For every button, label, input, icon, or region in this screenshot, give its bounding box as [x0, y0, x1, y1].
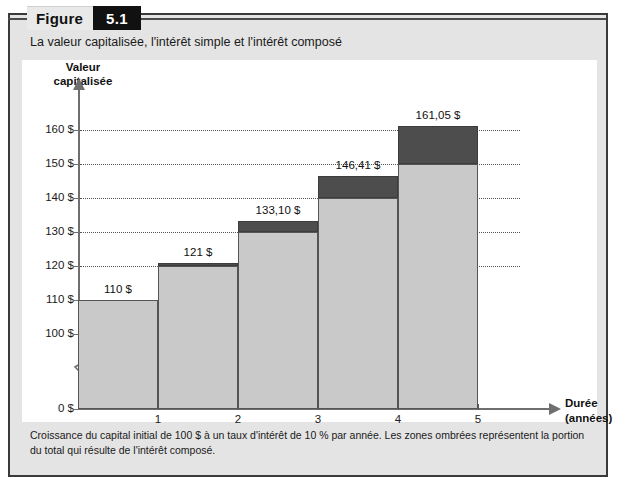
y-axis-tick-mark: [74, 164, 79, 165]
bar-segment-compound-interest: [158, 263, 238, 266]
y-axis-tick: 0 $: [22, 402, 74, 416]
y-axis-tick-label: 110 $: [30, 293, 74, 305]
y-axis-tick: 140 $: [22, 191, 74, 205]
bar-segment-simple-interest: [318, 198, 398, 409]
y-axis-tick-label: 130 $: [30, 225, 74, 237]
x-axis-tick-label: 1: [143, 413, 173, 425]
y-axis-tick-label: 0 $: [30, 402, 74, 414]
x-axis-tick-label: 3: [303, 413, 333, 425]
y-axis-tick-label: 100 $: [30, 327, 74, 339]
y-axis-tick-mark: [74, 232, 79, 233]
figure-number-badge: 5.1: [93, 6, 141, 30]
x-axis-tick-mark: [478, 404, 479, 410]
bar-segment-simple-interest: [158, 266, 238, 409]
y-axis-label-line1: Valeur: [40, 60, 126, 74]
y-axis-tick: 110 $: [22, 293, 74, 307]
x-axis-label-line2: (années): [565, 411, 612, 426]
y-axis-tick-label: 120 $: [30, 259, 74, 271]
bar-segment-simple-interest: [78, 300, 158, 409]
figure-caption: Croissance du capital initial de 100 $ à…: [30, 428, 590, 458]
y-axis-tick-mark: [74, 130, 79, 131]
y-axis-tick: 100 $: [22, 327, 74, 341]
bar-value-label: 146,41 $: [313, 159, 403, 171]
figure-tab: Figure 5.1: [27, 6, 141, 30]
bar-segment-simple-interest: [238, 232, 318, 409]
y-axis-tick-mark: [74, 409, 79, 410]
bar-segment-compound-interest: [238, 221, 318, 232]
y-axis-tick: 130 $: [22, 225, 74, 239]
bar-value-label: 161,05 $: [393, 109, 483, 121]
x-axis-label-line1: Durée: [565, 396, 612, 411]
y-axis-tick-mark: [74, 266, 79, 267]
figure-tab-word: Figure: [27, 6, 93, 30]
y-axis-tick: 120 $: [22, 259, 74, 273]
x-axis-tick-label: 5: [463, 413, 493, 425]
bar-segment-compound-interest: [398, 126, 478, 164]
figure-tab-elbow: [8, 18, 28, 20]
y-axis-tick: 160 $: [22, 123, 74, 137]
x-axis-tick-label: 2: [223, 413, 253, 425]
y-axis-tick-label: 160 $: [30, 123, 74, 135]
bar-value-label: 133,10 $: [233, 204, 323, 216]
bar-segment-simple-interest: [398, 164, 478, 409]
x-axis-arrow-icon: [549, 403, 561, 415]
y-axis-tick-label: 140 $: [30, 191, 74, 203]
y-axis-tick-label: 150 $: [30, 157, 74, 169]
bar-value-label: 121 $: [153, 246, 243, 258]
figure-tab-rule: [140, 18, 606, 20]
y-axis-tick: 150 $: [22, 157, 74, 171]
y-axis-tick-mark: [74, 198, 79, 199]
bar-value-label: 110 $: [73, 283, 163, 295]
figure-root: Figure 5.1 La valeur capitalisée, l'inté…: [0, 0, 619, 489]
x-axis-tick-label: 4: [383, 413, 413, 425]
bar-segment-compound-interest: [318, 176, 398, 198]
chart-panel: Valeur capitalisée Durée (années) 160 $1…: [22, 60, 597, 422]
x-axis-label: Durée (années): [565, 396, 612, 426]
figure-subtitle: La valeur capitalisée, l'intérêt simple …: [30, 35, 342, 49]
